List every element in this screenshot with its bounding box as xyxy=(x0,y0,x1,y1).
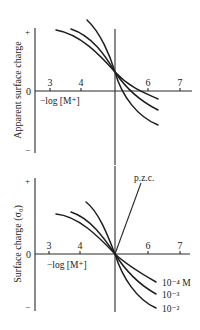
bottom-y-axis-label: Surface charge (σ₀) xyxy=(12,205,24,283)
series-label-1e-4: 10⁻⁴ M xyxy=(162,278,191,288)
top-curve-1e-4 xyxy=(56,30,158,99)
pzc-pointer-line xyxy=(115,183,141,254)
top-curve-1e-2 xyxy=(87,20,158,125)
pzc-label: p.z.c. xyxy=(134,173,154,183)
top-y-axis-label: Apparent surface charge xyxy=(12,41,23,139)
bottom-xtick-label-3: 3 xyxy=(47,240,52,251)
bottom-xtick-label-7: 7 xyxy=(178,240,183,251)
top-x-axis-label: −log [M⁺] xyxy=(40,96,80,106)
bottom-curve-1e-4 xyxy=(56,214,156,282)
bottom-panel: 3 4 6 7 + 0 − −log [M⁺] Surface charge (… xyxy=(12,173,191,314)
top-y-zero: 0 xyxy=(26,86,31,97)
bottom-y-zero: 0 xyxy=(26,249,31,260)
top-xtick-label-3: 3 xyxy=(48,77,53,88)
bottom-curve-1e-3 xyxy=(71,212,156,294)
top-panel: 3 4 6 7 + 0 − −log [M⁺] Apparent surface… xyxy=(12,20,192,155)
bottom-x-axis-label: −log [M⁺] xyxy=(47,260,87,270)
top-y-minus: − xyxy=(25,145,30,155)
top-y-plus: + xyxy=(25,27,30,37)
series-label-1e-2: 10⁻² xyxy=(162,304,180,314)
bottom-y-plus: + xyxy=(25,176,30,186)
bottom-xtick-label-4: 4 xyxy=(78,240,83,251)
bottom-curve-1e-2 xyxy=(86,202,156,308)
top-xtick-label-7: 7 xyxy=(178,77,183,88)
bottom-y-minus: − xyxy=(25,302,30,312)
diagram-canvas: 3 4 6 7 + 0 − −log [M⁺] Apparent surface… xyxy=(0,0,200,330)
bottom-xtick-label-6: 6 xyxy=(146,240,151,251)
series-label-1e-3: 10⁻³ xyxy=(162,290,180,300)
top-xtick-label-6: 6 xyxy=(146,77,151,88)
top-xtick-label-4: 4 xyxy=(79,77,84,88)
